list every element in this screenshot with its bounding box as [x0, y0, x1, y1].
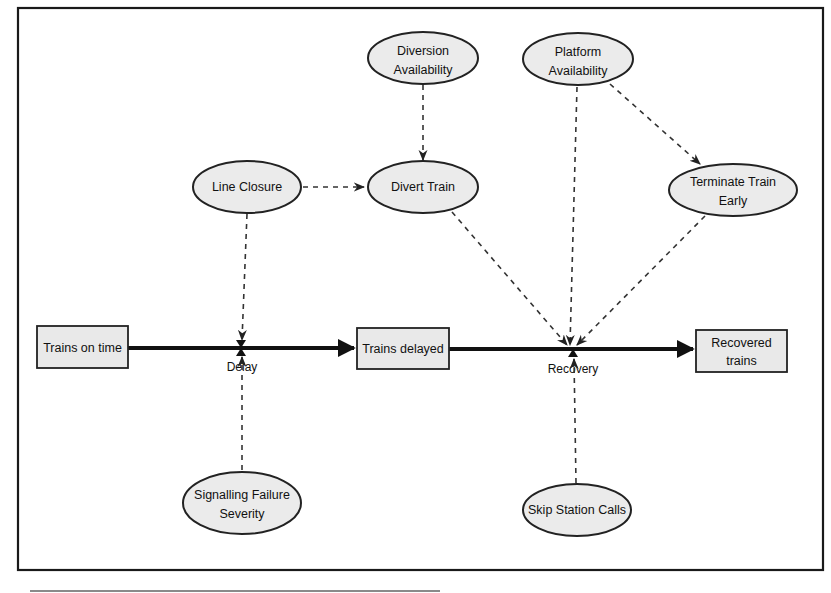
stock-recovered-trains-label-2: trains	[726, 354, 757, 368]
stock-recovered-trains[interactable]: Recovered trains	[696, 330, 787, 372]
aux-diversion-availability-label-1: Diversion	[397, 44, 449, 58]
aux-platform-availability[interactable]: Platform Availability	[523, 33, 633, 85]
aux-line-closure[interactable]: Line Closure	[193, 161, 301, 213]
aux-divert-train-label: Divert Train	[391, 180, 455, 194]
stock-recovered-trains-label-1: Recovered	[711, 336, 771, 350]
aux-line-closure-label: Line Closure	[212, 180, 282, 194]
stock-trains-on-time-label: Trains on time	[43, 341, 122, 355]
stock-trains-delayed[interactable]: Trains delayed	[357, 328, 449, 369]
diagram-frame	[18, 8, 823, 570]
stock-trains-on-time[interactable]: Trains on time	[37, 326, 128, 368]
aux-divert-train[interactable]: Divert Train	[368, 161, 478, 213]
aux-diversion-availability-label-2: Availability	[394, 63, 454, 77]
aux-platform-availability-label-2: Availability	[549, 64, 609, 78]
aux-signalling-failure-severity[interactable]: Signalling Failure Severity	[183, 472, 301, 534]
flow-recovery-label: Recovery	[548, 362, 599, 376]
aux-signalling-failure-severity-label-1: Signalling Failure	[194, 488, 290, 502]
aux-terminate-train-early-label-2: Early	[719, 194, 748, 208]
aux-signalling-failure-severity-label-2: Severity	[219, 507, 265, 521]
stock-trains-delayed-label: Trains delayed	[362, 342, 444, 356]
aux-terminate-train-early[interactable]: Terminate Train Early	[669, 164, 797, 216]
aux-skip-station-calls-label: Skip Station Calls	[528, 503, 626, 517]
aux-diversion-availability[interactable]: Diversion Availability	[368, 32, 478, 84]
aux-terminate-train-early-label-1: Terminate Train	[690, 175, 776, 189]
stock-flow-diagram: Delay Recovery Trains on time Trains del…	[0, 0, 831, 593]
aux-skip-station-calls[interactable]: Skip Station Calls	[523, 484, 631, 536]
aux-platform-availability-label-1: Platform	[555, 45, 602, 59]
